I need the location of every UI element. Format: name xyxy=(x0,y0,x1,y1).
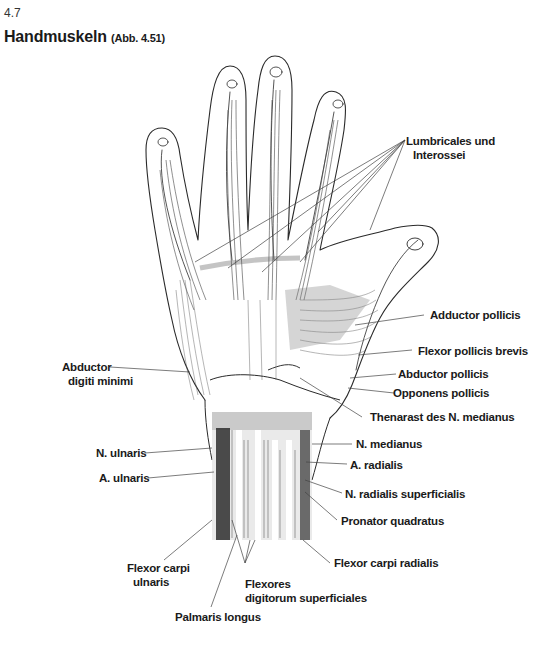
label-a-ulnaris: A. ulnaris xyxy=(99,471,149,485)
label-n-radialis-superficialis: N. radialis superficialis xyxy=(345,487,465,501)
label-pronator-quadratus: Pronator quadratus xyxy=(341,514,444,528)
label-n-ulnaris: N. ulnaris xyxy=(96,446,146,460)
label-flexor-pollicis-brevis: Flexor pollicis brevis xyxy=(418,344,528,358)
label-opponens-pollicis: Opponens pollicis xyxy=(393,386,489,400)
label-palmaris-longus: Palmaris longus xyxy=(175,610,261,624)
hand-muscle-illustration xyxy=(0,0,543,653)
label-abductor-pollicis: Abductor pollicis xyxy=(398,367,489,381)
label-flexor-carpi-radialis: Flexor carpi radialis xyxy=(334,556,438,570)
label-line: digitorum superficiales xyxy=(245,591,367,605)
label-flexores-digitorum-superficiales: Flexores digitorum superficiales xyxy=(245,577,367,605)
label-line: Interossei xyxy=(406,148,495,162)
label-lumbricales-interossei: Lumbricales und Interossei xyxy=(406,134,495,162)
label-n-medianus: N. medianus xyxy=(356,437,422,451)
label-line: digiti minimi xyxy=(40,374,133,388)
label-line: Flexor carpi xyxy=(127,561,190,575)
label-flexor-carpi-ulnaris: Flexor carpi ulnaris xyxy=(127,561,190,589)
label-line: Abductor xyxy=(40,360,133,374)
label-line: Lumbricales und xyxy=(406,134,495,148)
label-a-radialis: A. radialis xyxy=(350,458,403,472)
label-abductor-digiti-minimi: Abductor digiti minimi xyxy=(40,360,133,388)
label-adductor-pollicis-upper: Adductor pollicis xyxy=(430,308,521,322)
label-line: Flexores xyxy=(245,577,367,591)
label-thenarast-n-medianus: Thenarast des N. medianus xyxy=(370,410,515,424)
label-line: ulnaris xyxy=(127,575,190,589)
